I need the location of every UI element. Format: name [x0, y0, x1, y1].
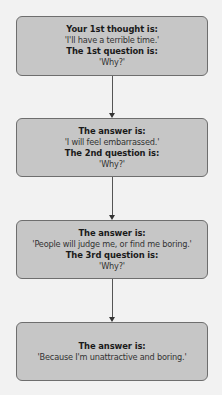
step-1-question-label: The 1st question is: [66, 46, 157, 57]
step-3-label: The answer is: [78, 228, 145, 239]
step-3-question: 'Why?' [99, 261, 125, 272]
step-2-box: The answer is: 'I will feel embarrassed.… [16, 118, 208, 177]
step-1-label: Your 1st thought is: [66, 24, 158, 35]
step-1-box: Your 1st thought is: 'I'll have a terrib… [16, 16, 208, 76]
step-4-box: The answer is: 'Because I'm unattractive… [16, 322, 208, 381]
step-1-thought: 'I'll have a terrible time.' [65, 35, 159, 46]
step-2-question-label: The 2nd question is: [65, 148, 159, 159]
step-1-question: 'Why?' [99, 57, 125, 68]
step-3-answer: 'People will judge me, or find me boring… [32, 239, 191, 250]
step-2-question: 'Why?' [99, 159, 125, 170]
arrow-3-line [112, 279, 113, 318]
step-2-label: The answer is: [78, 126, 145, 137]
step-4-answer: 'Because I'm unattractive and boring.' [38, 352, 187, 363]
step-2-answer: 'I will feel embarrassed.' [65, 137, 159, 148]
step-4-label: The answer is: [78, 341, 145, 352]
arrow-2-line [112, 177, 113, 215]
arrow-1-line [112, 76, 113, 114]
step-3-question-label: The 3rd question is: [66, 250, 158, 261]
step-3-box: The answer is: 'People will judge me, or… [16, 220, 208, 279]
